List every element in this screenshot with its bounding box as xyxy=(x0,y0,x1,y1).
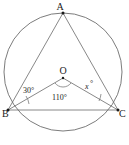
chord-ac xyxy=(63,13,118,110)
center-label-o: O xyxy=(59,65,66,76)
angle-label-c-degree: ° xyxy=(90,79,93,88)
angle-label-c-variable: x xyxy=(84,82,89,91)
angle-label-o: 110° xyxy=(52,93,67,102)
vertex-label-c: C xyxy=(119,108,126,119)
vertex-dot-o xyxy=(62,77,64,79)
angle-label-b: 30° xyxy=(23,86,34,95)
angle-arc-at-o xyxy=(55,83,71,87)
geometry-canvas: A B C O 30° 110° x ° xyxy=(0,0,129,145)
vertex-label-b: B xyxy=(2,108,9,119)
vertex-label-a: A xyxy=(56,1,64,12)
angle-arc-at-b xyxy=(26,96,29,104)
geometry-figure: A B C O 30° 110° x ° xyxy=(0,0,129,145)
